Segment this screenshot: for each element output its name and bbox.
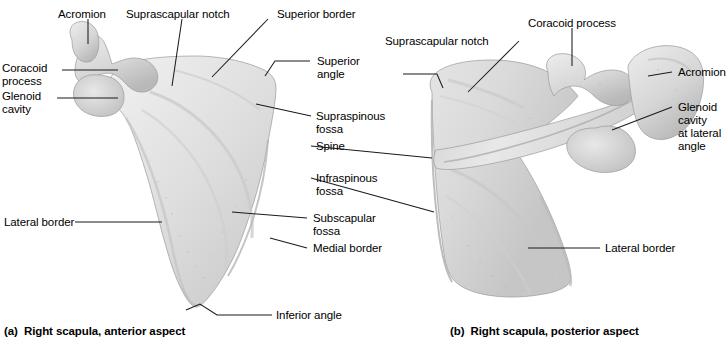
label-lateral-border-anterior: Lateral border [4,216,74,229]
label-subscapular-fossa-line1: Subscapular [313,212,376,225]
label-glenoid-cavity-anterior-line2: cavity [2,103,31,116]
label-spine: Spine [316,140,345,153]
anterior-blade [109,56,276,307]
label-supraspinous-fossa-line2: fossa [316,123,343,136]
label-suprascapular-notch-anterior: Suprascapular notch [126,8,230,21]
label-glenoid-cavity-anterior-line1: Glenoid [2,90,41,103]
anterior-acromion [70,21,99,62]
label-infraspinous-fossa-line1: Infraspinous [316,172,377,185]
label-superior-border: Superior border [277,8,355,21]
label-lateral-border-posterior: Lateral border [605,242,675,255]
label-coracoid-process-posterior: Coracoid process [528,17,616,30]
leader-superior-angle [265,61,310,76]
anterior-glenoid-cavity [73,75,124,117]
label-coracoid-process-anterior-line2: process [2,75,42,88]
label-inferior-angle: Inferior angle [276,309,342,322]
label-suprascapular-notch-posterior: Suprascapular notch [385,35,489,48]
label-superior-angle-line1: Superior [317,55,360,68]
label-glenoid-cavity-posterior-line4: angle [678,140,706,153]
leader-medial-border [270,238,307,248]
posterior-glenoid-cavity [567,126,636,173]
label-subscapular-fossa-line2: fossa [313,225,340,238]
label-glenoid-cavity-posterior-line1: Glenoid [678,101,717,114]
label-medial-border: Medial border [313,242,382,255]
label-glenoid-cavity-posterior-line3: at lateral [678,127,721,140]
label-coracoid-process-anterior-line1: Coracoid [2,62,47,75]
scapula-posterior-bone [430,46,704,297]
scapula-anterior-bone [70,21,276,307]
label-acromion-anterior: Acromion [58,8,106,21]
label-superior-angle-line2: angle [317,68,345,81]
label-acromion-posterior: Acromion [678,66,726,79]
label-infraspinous-fossa-line2: fossa [316,185,343,198]
caption-panel-a: (a) Right scapula, anterior aspect [4,325,185,337]
posterior-blade [430,60,578,297]
label-glenoid-cavity-posterior-line2: cavity [678,114,707,127]
label-supraspinous-fossa-line1: Supraspinous [316,110,385,123]
caption-panel-b: (b) Right scapula, posterior aspect [450,325,639,337]
scapula-figure: Acromion Coracoid process Glenoid cavity… [0,0,727,344]
